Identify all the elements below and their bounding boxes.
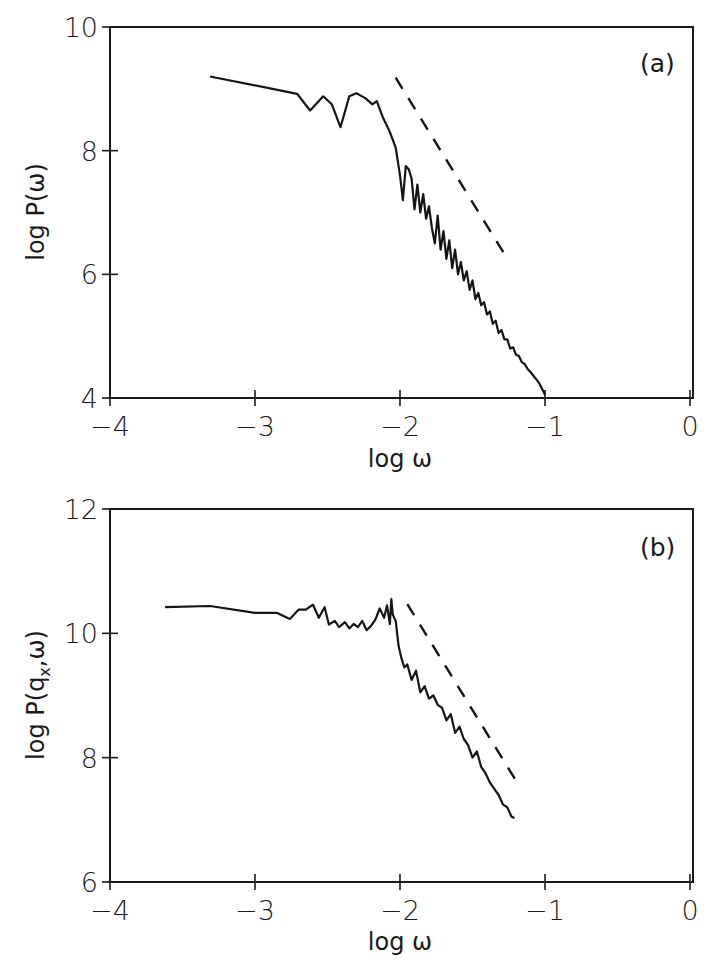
spectrum-curve-b [165, 599, 514, 818]
reference-slope-line-a [396, 78, 506, 257]
figure: 46810 −4−3−2−10 (a) log ω log P(ω) 68101… [0, 0, 709, 968]
y-axis-label-b-sub: x [35, 667, 54, 676]
reference-slope-line-b [407, 604, 516, 781]
x-tick-label: −1 [525, 411, 565, 442]
x-tick-label: −4 [90, 411, 130, 442]
plot-frame-a [110, 27, 693, 398]
spectrum-curve-a [210, 77, 545, 395]
y-tick-label: 6 [81, 259, 98, 290]
y-tick-label: 12 [64, 494, 98, 525]
ticks-a [102, 27, 690, 406]
y-tick-label: 8 [81, 743, 98, 774]
y-tick-label: 8 [81, 136, 98, 167]
x-tick-labels-b: −4−3−2−10 [90, 895, 699, 926]
y-tick-labels-a: 46810 [64, 12, 98, 414]
plot-frame-b [110, 509, 693, 882]
y-tick-label: 4 [81, 383, 98, 414]
x-axis-label-a: log ω [368, 445, 432, 473]
panel-b: 681012 −4−3−2−10 (b) log ω log P(qx,ω) [22, 494, 699, 956]
x-tick-label: 0 [681, 411, 698, 442]
x-tick-label: −2 [380, 895, 420, 926]
y-axis-label-a: log P(ω) [22, 163, 50, 261]
y-tick-label: 10 [64, 12, 98, 43]
x-tick-label: −1 [525, 895, 565, 926]
x-axis-label-b: log ω [368, 928, 432, 956]
panel-label-b: (b) [640, 533, 675, 562]
panel-label-a: (a) [640, 49, 675, 78]
x-tick-label: −3 [235, 411, 275, 442]
x-tick-label: −2 [380, 411, 420, 442]
ticks-b [102, 509, 690, 890]
y-tick-labels-b: 681012 [64, 494, 98, 898]
y-axis-label-b: log P(qx,ω) [22, 630, 54, 760]
y-axis-label-b-post: ,ω) [22, 630, 50, 667]
y-tick-label: 10 [64, 618, 98, 649]
panel-a: 46810 −4−3−2−10 (a) log ω log P(ω) [22, 12, 699, 473]
x-tick-label: −3 [235, 895, 275, 926]
y-tick-label: 6 [81, 867, 98, 898]
x-tick-labels-a: −4−3−2−10 [90, 411, 699, 442]
x-tick-label: 0 [681, 895, 698, 926]
y-axis-label-b-pre: log P(q [22, 677, 50, 760]
x-tick-label: −4 [90, 895, 130, 926]
